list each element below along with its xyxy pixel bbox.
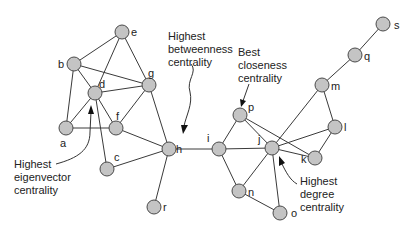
edge-d-c xyxy=(95,93,107,169)
node-circle xyxy=(265,141,279,155)
node-label: d xyxy=(99,78,105,90)
node-label: m xyxy=(331,80,340,92)
node-label: g xyxy=(148,67,154,79)
node-p: p xyxy=(233,101,254,122)
node-label: e xyxy=(131,26,137,38)
degree-arrow-icon xyxy=(279,156,285,166)
node-label: n xyxy=(248,186,254,198)
edge-g-h xyxy=(149,85,169,149)
node-f: f xyxy=(109,110,123,135)
edge-i-j xyxy=(219,148,272,149)
node-label: b xyxy=(58,58,64,70)
node-circle xyxy=(100,162,114,176)
node-circle xyxy=(147,200,161,214)
node-label: q xyxy=(364,50,370,62)
node-label: h xyxy=(176,143,182,155)
node-label: p xyxy=(248,101,254,113)
node-circle xyxy=(67,57,81,71)
closeness-arrow-icon xyxy=(240,99,246,107)
node-k: k xyxy=(301,151,322,165)
annotation-eigenvector: Highesteigenvectorcentrality xyxy=(14,158,71,196)
node-circle xyxy=(212,142,226,156)
annotation-betweenness: Highestbetweennesscentrality xyxy=(168,30,233,68)
edge-b-a xyxy=(66,64,74,128)
node-label: l xyxy=(344,121,346,133)
node-e: e xyxy=(115,25,137,39)
node-j: j xyxy=(257,133,279,155)
node-c: c xyxy=(100,151,120,176)
node-circle xyxy=(348,48,362,62)
node-label: k xyxy=(301,153,307,165)
node-label: o xyxy=(291,207,297,219)
edge-j-n xyxy=(239,148,272,191)
betweenness-arrow-icon xyxy=(181,125,188,134)
node-a: a xyxy=(59,121,73,149)
node-circle xyxy=(232,184,246,198)
edge-j-o xyxy=(272,148,280,213)
network-graph: abcdefghijklmnopqrs Highestbetweennessce… xyxy=(0,0,416,230)
node-circle xyxy=(59,121,73,135)
node-label: s xyxy=(394,19,400,31)
node-circle xyxy=(376,17,390,31)
node-h: h xyxy=(162,142,182,156)
node-circle xyxy=(328,120,342,134)
node-g: g xyxy=(142,67,156,92)
node-circle xyxy=(162,142,176,156)
closeness-pointer-line xyxy=(243,84,249,101)
node-i: i xyxy=(207,132,226,156)
node-circle xyxy=(115,25,129,39)
node-circle xyxy=(142,78,156,92)
node-label: f xyxy=(116,110,120,122)
edge-f-h xyxy=(116,128,169,149)
node-r: r xyxy=(147,200,167,214)
node-label: r xyxy=(163,201,167,213)
node-circle xyxy=(308,151,322,165)
node-circle xyxy=(315,78,329,92)
node-s: s xyxy=(376,17,400,31)
node-circle xyxy=(109,121,123,135)
edge-j-l xyxy=(272,127,335,148)
edge-f-g xyxy=(116,85,149,128)
edge-h-r xyxy=(154,149,169,207)
node-label: i xyxy=(207,132,209,144)
node-d: d xyxy=(88,78,105,100)
node-label: j xyxy=(257,133,260,145)
node-o: o xyxy=(273,206,297,220)
node-b: b xyxy=(58,57,81,71)
node-circle xyxy=(233,108,247,122)
node-n: n xyxy=(232,184,254,198)
eigenvector-arrow-icon xyxy=(88,105,94,114)
betweenness-pointer-line xyxy=(184,64,193,126)
edge-e-g xyxy=(122,32,149,85)
degree-pointer-line xyxy=(282,164,297,184)
node-l: l xyxy=(328,120,346,134)
node-label: c xyxy=(114,151,120,163)
node-q: q xyxy=(348,48,370,62)
node-circle xyxy=(273,206,287,220)
node-label: a xyxy=(60,137,67,149)
node-m: m xyxy=(315,78,340,92)
edge-b-g xyxy=(74,64,149,85)
annotation-closeness: Bestclosenesscentrality xyxy=(238,46,287,84)
edge-j-m xyxy=(272,85,322,148)
annotation-degree: Highestdegreecentrality xyxy=(300,175,345,213)
